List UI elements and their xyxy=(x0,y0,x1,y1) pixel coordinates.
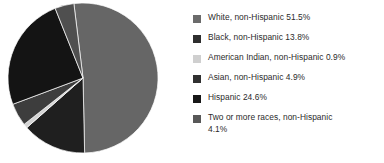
legend-item-label: Two or more races, non-Hispanic 4.1% xyxy=(208,112,332,135)
pie-chart-plot xyxy=(6,2,164,158)
legend-swatch-icon xyxy=(193,35,201,43)
legend-swatch-icon xyxy=(193,115,201,123)
legend-swatch-icon xyxy=(193,15,201,23)
legend-item: American Indian, non-Hispanic 0.9% xyxy=(193,52,383,64)
legend-item: Hispanic 24.6% xyxy=(193,92,383,104)
pie-slices-group xyxy=(6,2,164,158)
chart-legend: White, non-Hispanic 51.5% Black, non-His… xyxy=(193,12,383,136)
pie-slice xyxy=(74,3,158,153)
legend-item: Black, non-Hispanic 13.8% xyxy=(193,32,383,44)
legend-item-label: Asian, non-Hispanic 4.9% xyxy=(208,72,305,84)
legend-item-label: American Indian, non-Hispanic 0.9% xyxy=(208,52,345,64)
legend-item: White, non-Hispanic 51.5% xyxy=(193,12,383,24)
legend-swatch-icon xyxy=(193,75,201,83)
legend-swatch-icon xyxy=(193,55,201,63)
legend-item-label: White, non-Hispanic 51.5% xyxy=(208,12,310,24)
legend-item: Two or more races, non-Hispanic 4.1% xyxy=(193,112,383,135)
legend-item: Asian, non-Hispanic 4.9% xyxy=(193,72,383,84)
legend-item-label: Hispanic 24.6% xyxy=(208,92,267,104)
legend-item-label: Black, non-Hispanic 13.8% xyxy=(208,32,309,44)
legend-swatch-icon xyxy=(193,95,201,103)
pie-chart-figure: White, non-Hispanic 51.5% Black, non-His… xyxy=(0,0,384,163)
